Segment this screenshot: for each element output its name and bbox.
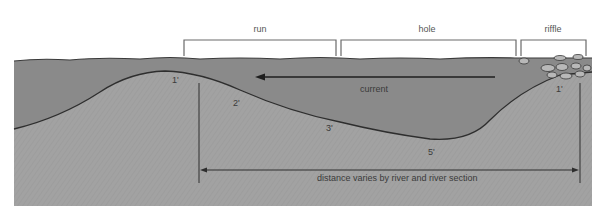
distance-label: distance varies by river and river secti… <box>317 173 478 183</box>
depth-label: 1' <box>172 75 179 85</box>
current-label: current <box>360 84 389 94</box>
section-label-hole: hole <box>418 24 435 34</box>
depth-label: 1' <box>556 84 563 94</box>
depth-label: 3' <box>326 123 333 133</box>
section-label-riffle: riffle <box>545 24 562 34</box>
depth-label: 2' <box>233 98 240 108</box>
section-label-run: run <box>253 24 266 34</box>
section-brackets <box>184 40 586 56</box>
depth-label: 5' <box>428 147 435 157</box>
river-section-diagram: run hole riffle current 1' 2' 3' 5' 1' d… <box>0 0 605 223</box>
